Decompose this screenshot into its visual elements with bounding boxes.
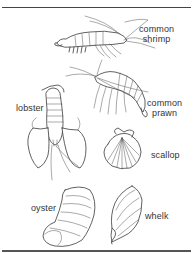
- bottom-rule: [2, 250, 191, 252]
- oyster-illustration: [43, 187, 95, 246]
- whelk-illustration: [111, 186, 142, 244]
- label-lobster: lobster: [16, 103, 44, 113]
- label-oyster: oyster: [31, 203, 56, 213]
- label-common-prawn: common prawn: [147, 98, 182, 118]
- label-common-shrimp: common shrimp: [139, 24, 174, 44]
- lobster-illustration: [28, 85, 86, 180]
- label-scallop: scallop: [151, 150, 180, 160]
- prawn-illustration: [66, 60, 148, 117]
- label-whelk: whelk: [145, 211, 169, 221]
- scallop-illustration: [104, 128, 141, 169]
